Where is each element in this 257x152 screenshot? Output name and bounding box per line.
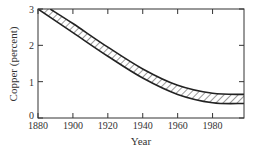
y-axis-label: Copper (percent) [7, 26, 20, 101]
hatched-band [38, 9, 244, 104]
x-axis: 188019001920194019601980 [28, 9, 223, 131]
x-tick-label: 1880 [28, 120, 48, 131]
chart: 188019001920194019601980 0123 Year Coppe… [0, 0, 257, 152]
y-tick-label: 1 [29, 77, 34, 88]
y-tick-label: 0 [29, 110, 34, 121]
x-axis-label: Year [131, 135, 152, 147]
x-tick-label: 1960 [168, 120, 188, 131]
upper-bound-line [50, 9, 244, 94]
y-tick-label: 3 [29, 4, 34, 15]
x-tick-label: 1980 [203, 120, 223, 131]
x-tick-label: 1940 [133, 120, 153, 131]
x-tick-label: 1920 [98, 120, 118, 131]
plot-area [38, 9, 244, 104]
y-tick-label: 2 [29, 40, 34, 51]
x-tick-label: 1900 [63, 120, 83, 131]
